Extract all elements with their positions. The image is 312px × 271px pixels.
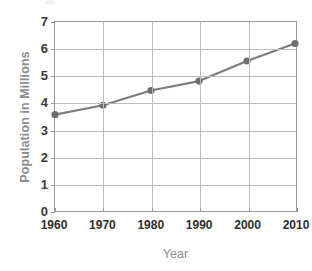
x-tick-mark bbox=[249, 208, 250, 212]
line-chart: Population in Millions 01234567 19601970… bbox=[0, 0, 312, 271]
plot-area bbox=[54, 21, 297, 212]
x-axis-tick-labels: 196019701980199020002010 bbox=[0, 219, 312, 239]
y-tick-mark bbox=[51, 185, 55, 186]
x-gridline bbox=[200, 22, 201, 211]
y-gridline bbox=[55, 103, 296, 104]
y-tick-mark bbox=[51, 49, 55, 50]
y-tick-mark bbox=[51, 76, 55, 77]
scan-artifact bbox=[46, 0, 56, 5]
y-tick-label: 0 bbox=[4, 205, 48, 218]
y-tick-mark bbox=[51, 212, 55, 213]
y-tick-label: 6 bbox=[4, 42, 48, 55]
y-gridline bbox=[55, 76, 296, 77]
x-gridline bbox=[249, 22, 250, 211]
y-axis-tick-labels: 01234567 bbox=[0, 21, 48, 212]
data-point-marker bbox=[51, 111, 58, 118]
x-tick-mark bbox=[297, 208, 298, 212]
y-tick-mark bbox=[51, 22, 55, 23]
y-tick-label: 4 bbox=[4, 96, 48, 109]
x-tick-mark bbox=[200, 208, 201, 212]
x-tick-mark bbox=[103, 208, 104, 212]
x-tick-label: 2010 bbox=[266, 219, 312, 231]
x-gridline bbox=[103, 22, 104, 211]
data-point-marker bbox=[291, 40, 298, 47]
x-tick-mark bbox=[55, 208, 56, 212]
y-tick-label: 7 bbox=[4, 15, 48, 28]
x-axis-title: Year bbox=[54, 247, 297, 261]
y-gridline bbox=[55, 158, 296, 159]
y-tick-mark bbox=[51, 131, 55, 132]
y-gridline bbox=[55, 185, 296, 186]
y-gridline bbox=[55, 49, 296, 50]
x-tick-mark bbox=[152, 208, 153, 212]
data-point-marker bbox=[195, 78, 202, 85]
x-gridline bbox=[152, 22, 153, 211]
y-tick-label: 3 bbox=[4, 123, 48, 136]
y-tick-mark bbox=[51, 158, 55, 159]
series-line-population bbox=[55, 22, 296, 211]
y-tick-label: 2 bbox=[4, 150, 48, 163]
y-gridline bbox=[55, 131, 296, 132]
y-tick-label: 5 bbox=[4, 69, 48, 82]
y-tick-label: 1 bbox=[4, 177, 48, 190]
y-tick-mark bbox=[51, 103, 55, 104]
